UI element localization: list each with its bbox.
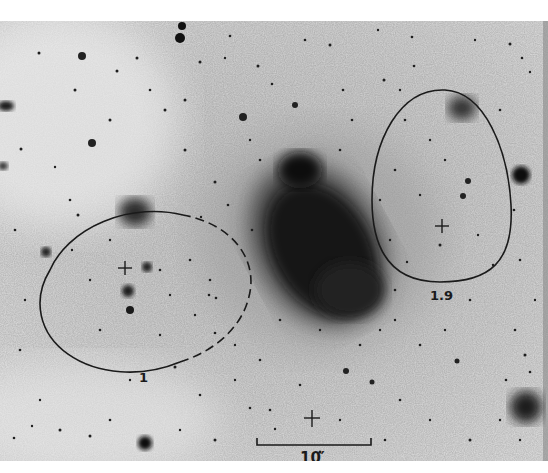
scale-bar-label: 10′	[300, 449, 325, 461]
astronomical-plate	[0, 21, 548, 461]
region-1.9-label: 1.9	[430, 288, 453, 303]
region-1-label: 1	[139, 370, 148, 385]
